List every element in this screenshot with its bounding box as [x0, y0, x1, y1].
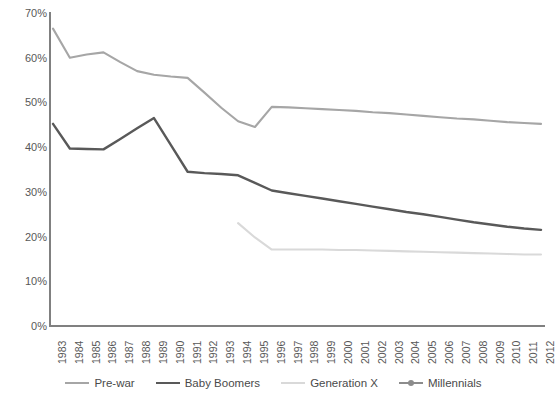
- y-axis-tick-label: 60%: [3, 53, 47, 64]
- series-line: [53, 118, 541, 230]
- legend-item[interactable]: Millennials: [399, 375, 482, 391]
- x-axis-tick-label: 2006: [444, 324, 454, 364]
- x-axis-tick-label: 2003: [394, 324, 404, 364]
- x-axis-tick-label: 1988: [141, 324, 151, 364]
- x-axis-tick-label: 1995: [259, 324, 269, 364]
- chart-title: [0, 0, 547, 4]
- x-axis-tick-label: 2012: [545, 324, 555, 364]
- x-axis-tick-label: 1984: [74, 324, 84, 364]
- y-axis-tick-label: 30%: [3, 187, 47, 198]
- x-axis-tick-label: 1993: [225, 324, 235, 364]
- x-axis-tick-label: 1997: [293, 324, 303, 364]
- x-axis-tick-label: 1992: [208, 324, 218, 364]
- legend-line-swatch-icon: [281, 378, 305, 388]
- chart-legend: Pre-warBaby BoomersGeneration XMillennia…: [0, 374, 547, 392]
- x-axis-tick-label: 2002: [377, 324, 387, 364]
- x-axis-tick-label: 2001: [360, 324, 370, 364]
- x-axis-tick-label: 1983: [57, 324, 67, 364]
- y-axis-tick-label: 20%: [3, 232, 47, 243]
- x-axis-tick-labels: 1983198419851986198719881989199019911992…: [51, 328, 545, 368]
- x-axis-tick-label: 1998: [309, 324, 319, 364]
- x-axis-tick-label: 2011: [528, 324, 538, 364]
- series-line: [238, 223, 541, 254]
- x-axis-tick-label: 1991: [192, 324, 202, 364]
- x-axis-tick-label: 2005: [427, 324, 437, 364]
- x-axis-tick-label: 1989: [158, 324, 168, 364]
- x-axis-tick-label: 2010: [511, 324, 521, 364]
- legend-item-label: Pre-war: [94, 377, 134, 389]
- x-axis-tick-label: 1996: [276, 324, 286, 364]
- x-axis-tick-label: 2004: [410, 324, 420, 364]
- x-axis-tick-label: 1985: [91, 324, 101, 364]
- y-axis-tick-label: 40%: [3, 142, 47, 153]
- x-axis-tick-label: 1987: [124, 324, 134, 364]
- x-axis-tick-label: 1990: [175, 324, 185, 364]
- x-axis-tick-label: 2008: [478, 324, 488, 364]
- legend-item-label: Baby Boomers: [185, 377, 260, 389]
- y-axis-tick-label: 50%: [3, 97, 47, 108]
- legend-line-swatch-icon: [156, 378, 180, 388]
- legend-item[interactable]: Generation X: [281, 375, 378, 391]
- x-axis-tick-label: 2007: [461, 324, 471, 364]
- x-axis-tick-label: 1986: [107, 324, 117, 364]
- legend-item[interactable]: Pre-war: [65, 375, 134, 391]
- y-axis-tick-label: 10%: [3, 276, 47, 287]
- y-axis-tick-label: 0%: [3, 321, 47, 332]
- legend-line-swatch-icon: [399, 378, 423, 388]
- legend-line-swatch-icon: [65, 378, 89, 388]
- x-axis-tick-label: 1999: [326, 324, 336, 364]
- legend-item-label: Generation X: [310, 377, 378, 389]
- legend-item[interactable]: Baby Boomers: [156, 375, 260, 391]
- y-axis-tick-label: 70%: [3, 8, 47, 19]
- x-axis-tick-label: 2000: [343, 324, 353, 364]
- x-axis-tick-label: 1994: [242, 324, 252, 364]
- legend-item-label: Millennials: [428, 377, 482, 389]
- plot-area: [51, 13, 545, 326]
- series-lines: [51, 13, 545, 326]
- series-line: [53, 29, 541, 127]
- x-axis-tick-label: 2009: [495, 324, 505, 364]
- y-axis-tick-labels: 0%10%20%30%40%50%60%70%: [0, 0, 47, 340]
